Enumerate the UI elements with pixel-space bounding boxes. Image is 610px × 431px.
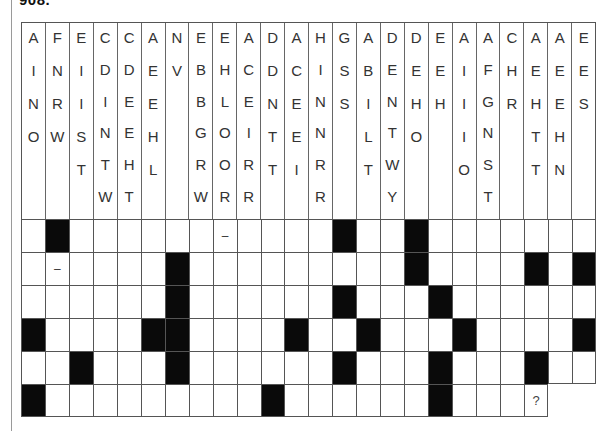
grid-cell[interactable] — [69, 384, 93, 417]
grid-cell[interactable] — [476, 285, 500, 318]
grid-cell[interactable] — [141, 219, 165, 252]
grid-cell[interactable] — [21, 285, 45, 318]
grid-cell[interactable] — [69, 219, 93, 252]
grid-cell[interactable] — [452, 252, 476, 285]
grid-cell[interactable] — [237, 318, 261, 351]
grid-cell[interactable] — [261, 285, 285, 318]
grid-cell[interactable] — [45, 318, 69, 351]
grid-cell[interactable] — [308, 318, 332, 351]
grid-cell[interactable] — [356, 351, 380, 384]
grid-cell[interactable] — [380, 351, 404, 384]
grid-cell[interactable] — [308, 252, 332, 285]
grid-cell[interactable] — [141, 252, 165, 285]
grid-cell[interactable] — [500, 219, 524, 252]
grid-cell[interactable] — [500, 285, 524, 318]
grid-cell[interactable] — [117, 285, 141, 318]
grid-cell[interactable] — [572, 219, 596, 252]
grid-cell[interactable] — [476, 219, 500, 252]
grid-cell[interactable] — [21, 351, 45, 384]
grid-cell[interactable] — [141, 384, 165, 417]
grid-cell[interactable] — [380, 252, 404, 285]
grid-cell[interactable] — [404, 318, 428, 351]
grid-cell[interactable] — [213, 351, 237, 384]
grid-cell[interactable] — [476, 318, 500, 351]
grid-cell[interactable] — [404, 384, 428, 417]
grid-cell[interactable] — [117, 384, 141, 417]
grid-cell[interactable] — [524, 318, 548, 351]
grid-cell[interactable] — [452, 351, 476, 384]
grid-cell[interactable] — [452, 219, 476, 252]
grid-cell[interactable] — [452, 384, 476, 417]
grid-cell[interactable] — [284, 252, 308, 285]
grid-cell[interactable] — [141, 285, 165, 318]
grid-cell[interactable] — [548, 219, 572, 252]
grid-cell[interactable]: ? — [524, 384, 548, 417]
grid-cell[interactable] — [93, 384, 117, 417]
grid-cell[interactable] — [237, 384, 261, 417]
grid-cell[interactable] — [332, 384, 356, 417]
grid-cell[interactable] — [165, 219, 189, 252]
grid-cell[interactable] — [404, 351, 428, 384]
grid-cell[interactable] — [548, 318, 572, 351]
grid-cell[interactable] — [500, 252, 524, 285]
grid-cell[interactable] — [69, 252, 93, 285]
grid-cell[interactable] — [356, 219, 380, 252]
grid-cell[interactable] — [213, 318, 237, 351]
grid-cell[interactable] — [428, 318, 452, 351]
grid-cell[interactable] — [284, 351, 308, 384]
grid-cell[interactable] — [93, 318, 117, 351]
grid-cell[interactable] — [213, 252, 237, 285]
grid-cell[interactable] — [45, 384, 69, 417]
grid-cell[interactable] — [524, 219, 548, 252]
grid-cell[interactable] — [213, 285, 237, 318]
grid-cell[interactable] — [165, 384, 189, 417]
grid-cell[interactable] — [189, 252, 213, 285]
grid-cell[interactable] — [189, 351, 213, 384]
grid-cell[interactable] — [117, 219, 141, 252]
grid-cell[interactable] — [380, 318, 404, 351]
grid-cell[interactable] — [117, 252, 141, 285]
grid-cell[interactable] — [45, 351, 69, 384]
grid-cell[interactable] — [404, 285, 428, 318]
grid-cell[interactable] — [500, 318, 524, 351]
grid-cell[interactable] — [572, 285, 596, 318]
grid-cell[interactable] — [237, 252, 261, 285]
grid-cell[interactable] — [21, 219, 45, 252]
grid-cell[interactable] — [261, 219, 285, 252]
grid-cell[interactable] — [476, 252, 500, 285]
grid-cell[interactable] — [476, 384, 500, 417]
grid-cell[interactable] — [524, 285, 548, 318]
grid-cell[interactable] — [237, 219, 261, 252]
grid-cell[interactable] — [93, 285, 117, 318]
grid-cell[interactable] — [189, 384, 213, 417]
grid-cell[interactable] — [428, 252, 452, 285]
grid-cell[interactable]: – — [213, 219, 237, 252]
grid-cell[interactable] — [356, 252, 380, 285]
grid-cell[interactable] — [189, 285, 213, 318]
grid-cell[interactable] — [356, 285, 380, 318]
grid-cell[interactable] — [284, 285, 308, 318]
grid-cell[interactable] — [93, 219, 117, 252]
grid-cell[interactable] — [452, 285, 476, 318]
grid-cell[interactable] — [428, 219, 452, 252]
grid-cell[interactable] — [332, 318, 356, 351]
grid-cell[interactable] — [261, 351, 285, 384]
grid-cell[interactable] — [476, 351, 500, 384]
grid-cell[interactable] — [308, 285, 332, 318]
grid-cell[interactable] — [45, 285, 69, 318]
grid-cell[interactable] — [117, 351, 141, 384]
grid-cell[interactable] — [380, 219, 404, 252]
grid-cell[interactable] — [284, 219, 308, 252]
grid-cell[interactable]: – — [45, 252, 69, 285]
grid-cell[interactable] — [332, 252, 356, 285]
grid-cell[interactable] — [284, 384, 308, 417]
grid-cell[interactable] — [93, 351, 117, 384]
grid-cell[interactable] — [548, 252, 572, 285]
grid-cell[interactable] — [356, 384, 380, 417]
grid-cell[interactable] — [261, 252, 285, 285]
grid-cell[interactable] — [548, 285, 572, 318]
grid-cell[interactable] — [500, 351, 524, 384]
grid-cell[interactable] — [93, 252, 117, 285]
grid-cell[interactable] — [117, 318, 141, 351]
grid-cell[interactable] — [213, 384, 237, 417]
